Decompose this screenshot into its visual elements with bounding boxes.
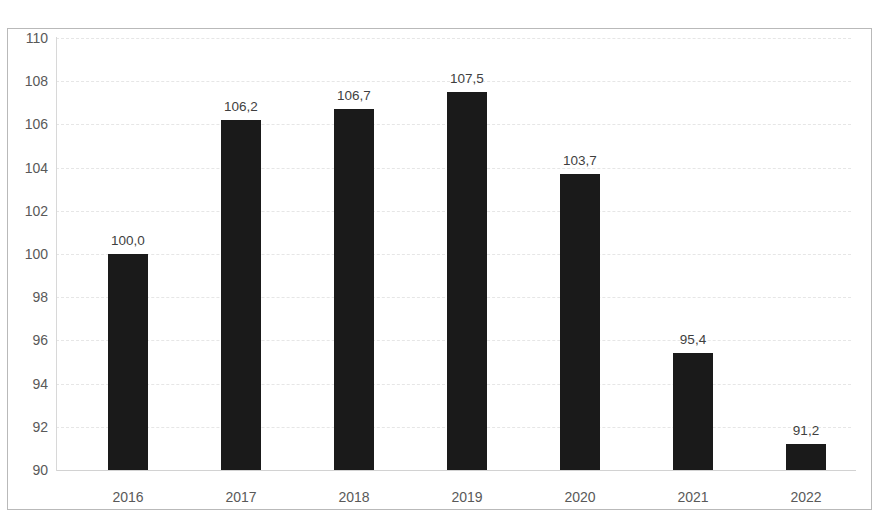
gridline: [56, 470, 856, 471]
gridline: [56, 38, 851, 39]
cropped-title-ghost: [0, 0, 881, 26]
y-axis-tick-label: 102: [8, 203, 48, 219]
y-axis-tick-label: 92: [8, 419, 48, 435]
x-axis-tick-label: 2021: [648, 489, 738, 505]
bar-value-label: 106,7: [309, 88, 399, 103]
y-axis-tick-label: 94: [8, 376, 48, 392]
x-axis-tick-label: 2018: [309, 489, 399, 505]
bar: [786, 444, 826, 470]
y-axis-tick-label: 96: [8, 332, 48, 348]
bar-value-label: 91,2: [761, 423, 851, 438]
x-axis-tick-label: 2022: [761, 489, 851, 505]
x-axis-tick-label: 2020: [535, 489, 625, 505]
bar-value-label: 95,4: [648, 332, 738, 347]
bar: [673, 353, 713, 470]
x-axis-tick-label: 2016: [83, 489, 173, 505]
y-axis-tick-label: 108: [8, 73, 48, 89]
bar-value-label: 100,0: [83, 233, 173, 248]
y-axis-tick-label: 110: [8, 30, 48, 46]
y-axis-tick-label: 104: [8, 160, 48, 176]
x-axis-tick-label: 2017: [196, 489, 286, 505]
plot-area: 1101081061041021009896949290 100,0106,21…: [8, 29, 873, 511]
x-axis-tick-label: 2019: [422, 489, 512, 505]
bar-value-label: 106,2: [196, 99, 286, 114]
y-axis-tick-label: 100: [8, 246, 48, 262]
y-axis-tick-label: 106: [8, 116, 48, 132]
bar: [108, 254, 148, 470]
bar: [560, 174, 600, 470]
bar-value-label: 107,5: [422, 71, 512, 86]
bar-value-label: 103,7: [535, 153, 625, 168]
bar: [221, 120, 261, 470]
bar: [447, 92, 487, 470]
y-axis-line: [56, 37, 57, 471]
chart-frame: 1101081061041021009896949290 100,0106,21…: [7, 28, 872, 510]
y-axis-tick-label: 90: [8, 462, 48, 478]
y-axis-tick-label: 98: [8, 289, 48, 305]
bar: [334, 109, 374, 470]
